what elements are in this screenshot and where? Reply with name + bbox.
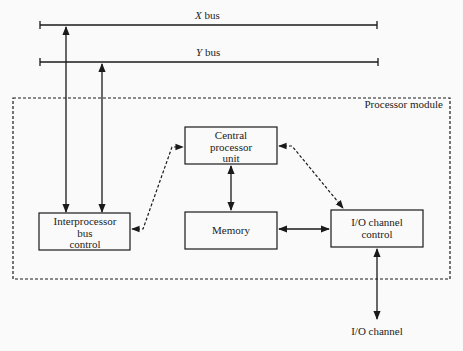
central-processor-unit-block: Central processor unit	[185, 127, 277, 164]
svg-text:control: control	[69, 238, 100, 250]
svg-text:I/O channel: I/O channel	[351, 216, 403, 228]
svg-text:control: control	[361, 228, 392, 240]
memory-block: Memory	[185, 212, 277, 249]
svg-text:Memory: Memory	[212, 224, 250, 236]
y-bus: Y bus	[40, 46, 378, 66]
io-channel-label: I/O channel	[351, 325, 403, 337]
ipbc-cpu-dashed-arrow	[132, 147, 183, 229]
processor-module-label: Processor module	[364, 98, 443, 110]
cpu-ioc-dashed-arrow	[279, 146, 343, 208]
x-bus-label: X bus	[194, 9, 220, 21]
processor-module-diagram: X bus Y bus Processor module Interproces…	[0, 0, 463, 351]
interprocessor-bus-control-block: Interprocessor bus control	[39, 213, 130, 250]
svg-text:Interprocessor: Interprocessor	[54, 215, 117, 227]
x-bus: X bus	[40, 9, 377, 29]
svg-text:unit: unit	[222, 152, 239, 164]
svg-text:Central: Central	[215, 129, 247, 141]
io-channel-control-block: I/O channel control	[331, 210, 423, 247]
y-bus-label: Y bus	[196, 46, 220, 58]
